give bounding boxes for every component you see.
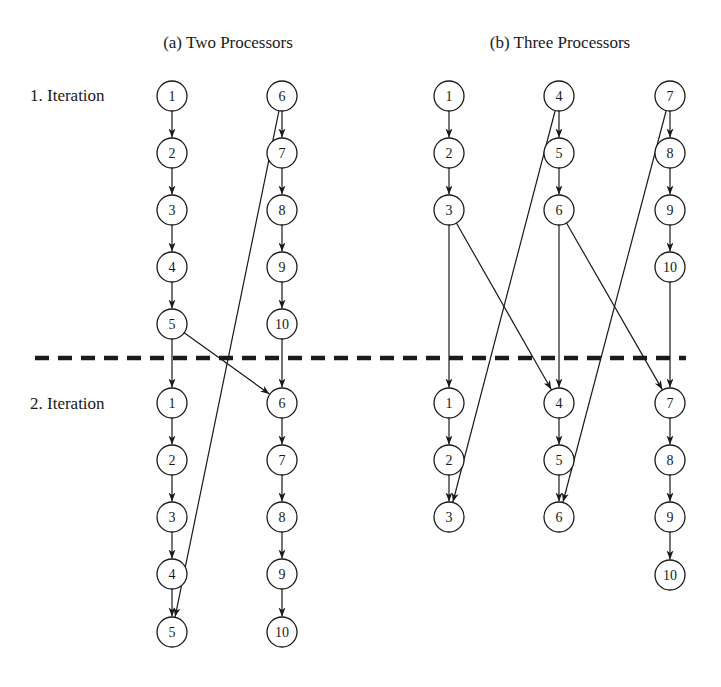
task-node-b2-10: 10 <box>655 560 685 590</box>
task-node-b1-10: 10 <box>655 252 685 282</box>
task-node-a1-7: 7 <box>267 138 297 168</box>
task-node-a2-10: 10 <box>267 617 297 647</box>
task-node-b2-4: 4 <box>544 388 574 418</box>
task-node-a2-1: 1 <box>157 388 187 418</box>
node-label: 2 <box>169 453 176 468</box>
node-label: 5 <box>556 453 563 468</box>
task-node-b1-3: 3 <box>434 195 464 225</box>
node-label: 8 <box>667 146 674 161</box>
node-label: 9 <box>667 203 674 218</box>
node-label: 4 <box>169 567 176 582</box>
task-node-a2-4: 4 <box>157 559 187 589</box>
task-node-a2-3: 3 <box>157 502 187 532</box>
task-node-b1-9: 9 <box>655 195 685 225</box>
task-node-b1-5: 5 <box>544 138 574 168</box>
task-node-a1-8: 8 <box>267 195 297 225</box>
node-label: 5 <box>169 317 176 332</box>
node-label: 6 <box>556 203 563 218</box>
task-node-b2-2: 2 <box>434 445 464 475</box>
node-label: 10 <box>663 568 677 583</box>
task-node-a2-7: 7 <box>267 445 297 475</box>
task-node-a1-4: 4 <box>157 252 187 282</box>
node-label: 9 <box>279 567 286 582</box>
row-label-iteration-2: 2. Iteration <box>30 394 105 413</box>
task-node-a2-6: 6 <box>267 388 297 418</box>
task-node-a2-8: 8 <box>267 502 297 532</box>
node-label: 3 <box>169 510 176 525</box>
edge-b1-7-to-b2-6 <box>563 111 666 503</box>
task-node-a2-2: 2 <box>157 445 187 475</box>
edge-b1-4-to-b2-3 <box>453 111 555 503</box>
task-node-a1-10: 10 <box>267 309 297 339</box>
node-label: 2 <box>446 453 453 468</box>
task-node-b2-8: 8 <box>655 445 685 475</box>
task-node-a1-5: 5 <box>157 309 187 339</box>
node-label: 5 <box>556 146 563 161</box>
task-node-b2-5: 5 <box>544 445 574 475</box>
task-node-b2-1: 1 <box>434 388 464 418</box>
node-label: 8 <box>279 203 286 218</box>
task-node-b2-6: 6 <box>544 502 574 532</box>
task-node-a2-5: 5 <box>157 617 187 647</box>
node-label: 1 <box>169 396 176 411</box>
task-node-b1-2: 2 <box>434 138 464 168</box>
task-node-b1-1: 1 <box>434 81 464 111</box>
node-label: 2 <box>169 146 176 161</box>
task-node-a2-9: 9 <box>267 559 297 589</box>
task-node-a1-6: 6 <box>267 81 297 111</box>
node-label: 8 <box>279 510 286 525</box>
node-label: 10 <box>663 260 677 275</box>
task-node-a1-9: 9 <box>267 252 297 282</box>
node-label: 3 <box>446 203 453 218</box>
task-node-b2-7: 7 <box>655 388 685 418</box>
node-label: 4 <box>169 260 176 275</box>
node-label: 7 <box>667 396 674 411</box>
edge-a1-6-to-a2-5 <box>175 111 279 617</box>
task-node-b1-8: 8 <box>655 138 685 168</box>
node-label: 1 <box>446 396 453 411</box>
panel-title-three-processors: (b) Three Processors <box>490 33 630 52</box>
node-label: 6 <box>279 396 286 411</box>
node-label: 7 <box>667 89 674 104</box>
node-label: 6 <box>556 510 563 525</box>
node-label: 8 <box>667 453 674 468</box>
panel-title-two-processors: (a) Two Processors <box>163 33 293 52</box>
node-label: 4 <box>556 396 563 411</box>
node-label: 3 <box>446 510 453 525</box>
node-label: 3 <box>169 203 176 218</box>
node-label: 10 <box>275 317 289 332</box>
row-label-iteration-1: 1. Iteration <box>30 86 105 105</box>
task-node-b2-3: 3 <box>434 502 464 532</box>
node-label: 10 <box>275 625 289 640</box>
task-node-a1-3: 3 <box>157 195 187 225</box>
node-label: 7 <box>279 146 286 161</box>
node-label: 6 <box>279 89 286 104</box>
task-node-a1-2: 2 <box>157 138 187 168</box>
iteration-schedule-diagram: (a) Two Processors (b) Three Processors … <box>0 0 721 687</box>
task-node-b1-6: 6 <box>544 195 574 225</box>
edges-layer <box>172 111 670 617</box>
node-label: 4 <box>556 89 563 104</box>
node-label: 1 <box>169 89 176 104</box>
nodes-layer: 1234567891012345678910123456789101234567… <box>157 81 685 647</box>
node-label: 7 <box>279 453 286 468</box>
node-label: 9 <box>667 510 674 525</box>
node-label: 2 <box>446 146 453 161</box>
task-node-a1-1: 1 <box>157 81 187 111</box>
node-label: 1 <box>446 89 453 104</box>
task-node-b1-7: 7 <box>655 81 685 111</box>
task-node-b1-4: 4 <box>544 81 574 111</box>
task-node-b2-9: 9 <box>655 502 685 532</box>
node-label: 9 <box>279 260 286 275</box>
node-label: 5 <box>169 625 176 640</box>
